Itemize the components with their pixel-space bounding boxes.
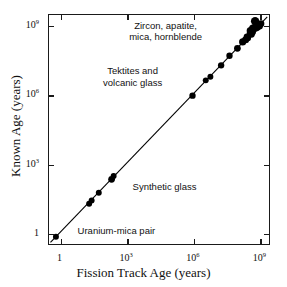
y-tick-label: 106 [0, 89, 39, 99]
y-tick-mark-right [264, 95, 270, 96]
plot-svg [49, 15, 269, 244]
fission-track-age-figure: Known Age (years) Zircon, apatite, mica,… [0, 0, 287, 287]
x-tick-mark-top [260, 14, 261, 20]
y-tick-mark [48, 234, 54, 235]
y-tick-label: 103 [0, 159, 39, 169]
x-tick-label: 1 [57, 253, 62, 263]
one-to-one-reference-line [50, 17, 267, 243]
plot-area [49, 15, 269, 244]
data-point [111, 173, 117, 179]
y-axis-title: Known Age (years) [8, 26, 24, 226]
y-tick-mark-right [264, 26, 270, 27]
synthetic-glass-label: Synthetic glass [133, 181, 197, 193]
y-tick-mark [48, 165, 54, 166]
y-tick-mark-right [264, 165, 270, 166]
data-point [89, 197, 95, 203]
zircon-apatite-label: Zircon, apatite, mica, hornblende [129, 20, 202, 43]
data-point [218, 62, 224, 68]
x-tick-mark [260, 239, 261, 245]
x-tick-label: 109 [253, 253, 266, 263]
uranium-mica-label: Uranium-mica pair [78, 225, 156, 237]
x-tick-label: 103 [120, 253, 133, 263]
data-point [96, 190, 102, 196]
x-tick-mark [194, 239, 195, 245]
x-tick-mark [61, 239, 62, 245]
y-tick-label: 1 [0, 228, 39, 238]
y-tick-mark [48, 26, 54, 27]
x-axis-title: Fission Track Age (years) [0, 265, 287, 281]
tektites-label: Tektites and volcanic glass [103, 65, 162, 88]
data-point [234, 45, 241, 52]
x-tick-label: 106 [186, 253, 199, 263]
plot-frame: Zircon, apatite, mica, hornblendeTektite… [48, 14, 270, 245]
y-tick-mark-right [264, 234, 270, 235]
y-tick-mark [48, 95, 54, 96]
x-tick-mark-top [61, 14, 62, 20]
data-point [226, 53, 232, 59]
x-tick-mark [127, 239, 128, 245]
data-point [207, 74, 213, 80]
y-tick-label: 109 [0, 20, 39, 30]
data-point [189, 93, 195, 99]
